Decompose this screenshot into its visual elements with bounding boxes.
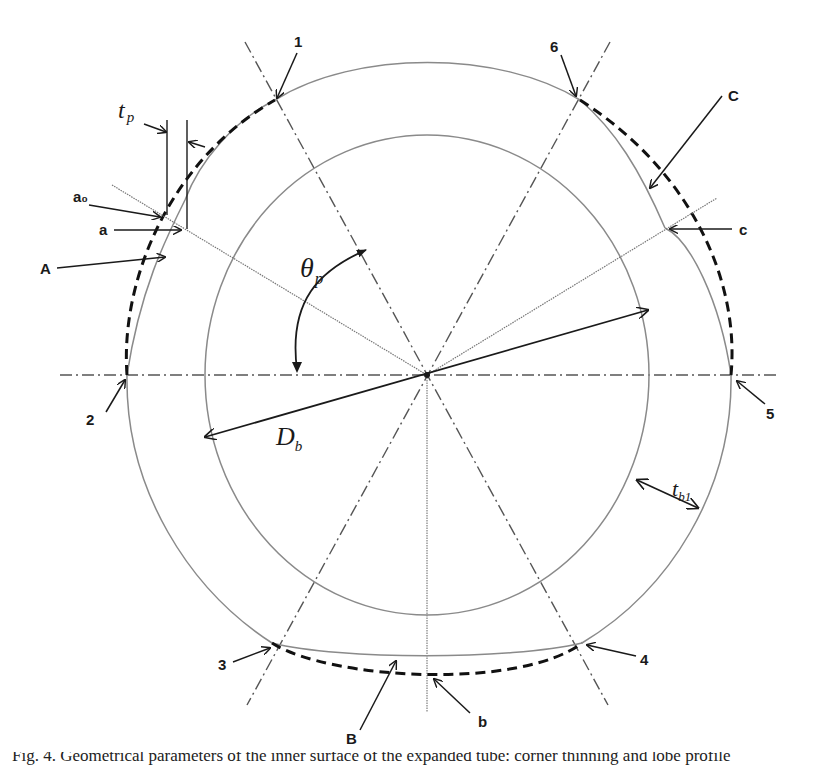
leader-arrows: [57, 53, 765, 730]
outer-contour: [127, 63, 731, 656]
label-region-C: C: [728, 87, 739, 104]
label-point-4: 4: [640, 651, 649, 668]
leader-C: [650, 96, 722, 188]
tp-arrow-right: [189, 142, 205, 147]
leader-2: [106, 380, 125, 412]
lobe-A: [126, 100, 275, 375]
leader-3: [233, 648, 270, 662]
symbol-Db: Db: [275, 422, 303, 454]
label-region-A: A: [40, 260, 51, 277]
radial-line-a: [112, 185, 427, 375]
symbol-tb1: tb1: [672, 476, 691, 504]
lobe-profiles: [126, 100, 732, 675]
leader-b: [434, 679, 470, 713]
label-region-b: b: [478, 713, 487, 730]
leader-a0: [89, 205, 160, 217]
theta-arc-head: [292, 362, 302, 373]
label-point-2: 2: [86, 411, 94, 428]
label-point-5: 5: [766, 405, 774, 422]
label-point-1: 1: [294, 33, 302, 50]
tp-arrow-left: [144, 124, 166, 132]
label-region-B: B: [346, 730, 357, 747]
figure-caption: Fig. 4. Geometrical parameters of the in…: [0, 752, 821, 770]
leader-A: [57, 257, 165, 268]
symbol-theta-p: θp: [300, 252, 323, 288]
leader-4: [587, 645, 636, 656]
lobe-C: [580, 100, 732, 375]
center-point: [424, 372, 430, 378]
leader-1: [277, 53, 297, 98]
label-region-c: c: [739, 221, 747, 238]
label-region-a: a: [99, 221, 108, 238]
label-a0: a₀: [73, 188, 88, 205]
label-point-6: 6: [550, 38, 558, 55]
radial-line-c: [427, 198, 717, 375]
leader-5: [737, 381, 765, 404]
pipe-section-diagram: 1 6 C c a₀ a A 2 5 3 4 B b tp θp Db tb1: [0, 0, 821, 770]
label-point-3: 3: [218, 656, 226, 673]
caption-text: Fig. 4. Geometrical parameters of the in…: [12, 752, 730, 765]
centerlines: [60, 42, 780, 705]
symbol-tp: tp: [118, 97, 135, 125]
